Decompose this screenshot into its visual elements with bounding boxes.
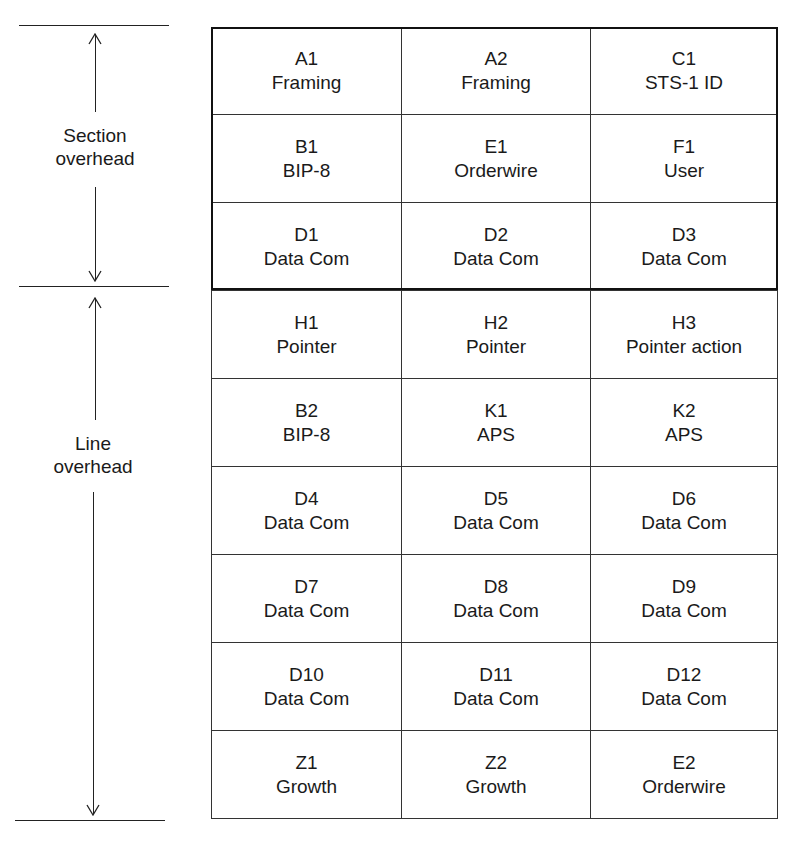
line-bottom-line <box>15 820 165 821</box>
byte-function: Data Com <box>641 599 727 623</box>
byte-function: Growth <box>465 775 526 799</box>
byte-function: APS <box>477 423 515 447</box>
byte-cell-d4: D4Data Com <box>211 467 402 555</box>
byte-code: C1 <box>672 47 696 71</box>
byte-function: Framing <box>272 71 342 95</box>
arrow-down-icon <box>88 270 102 282</box>
byte-cell-k1: K1APS <box>402 379 591 467</box>
byte-function: Data Com <box>264 599 350 623</box>
byte-cell-k2: K2APS <box>591 379 778 467</box>
byte-code: H3 <box>672 311 696 335</box>
byte-cell-z1: Z1Growth <box>211 731 402 819</box>
byte-function: Data Com <box>264 247 350 271</box>
overhead-byte-grid: A1FramingA2FramingC1STS-1 IDB1BIP-8E1Ord… <box>211 27 778 819</box>
byte-code: K2 <box>672 399 695 423</box>
byte-cell-d10: D10Data Com <box>211 643 402 731</box>
byte-code: D1 <box>294 223 318 247</box>
byte-cell-d12: D12Data Com <box>591 643 778 731</box>
line-arrow-up-shaft <box>95 298 96 420</box>
byte-function: Orderwire <box>642 775 725 799</box>
byte-function: Growth <box>276 775 337 799</box>
byte-code: A2 <box>484 47 507 71</box>
byte-cell-d5: D5Data Com <box>402 467 591 555</box>
byte-cell-h2: H2Pointer <box>402 291 591 379</box>
byte-code: H1 <box>294 311 318 335</box>
section-overhead-label: Section overhead <box>20 124 170 170</box>
byte-function: Data Com <box>641 247 727 271</box>
byte-code: Z1 <box>295 751 317 775</box>
byte-function: BIP-8 <box>283 423 331 447</box>
byte-cell-b2: B2BIP-8 <box>211 379 402 467</box>
byte-function: STS-1 ID <box>645 71 723 95</box>
byte-cell-f1: F1User <box>591 115 778 203</box>
byte-cell-d11: D11Data Com <box>402 643 591 731</box>
section-arrow-down-shaft <box>95 187 96 280</box>
byte-cell-c1: C1STS-1 ID <box>591 27 778 115</box>
byte-function: Pointer action <box>626 335 742 359</box>
section-label-line2: overhead <box>20 147 170 170</box>
byte-function: Data Com <box>264 511 350 535</box>
byte-code: D12 <box>667 663 702 687</box>
byte-cell-z2: Z2Growth <box>402 731 591 819</box>
byte-function: Framing <box>461 71 531 95</box>
byte-code: B1 <box>295 135 318 159</box>
byte-code: H2 <box>484 311 508 335</box>
byte-code: D4 <box>294 487 318 511</box>
byte-cell-h1: H1Pointer <box>211 291 402 379</box>
byte-function: Data Com <box>453 599 539 623</box>
byte-code: D9 <box>672 575 696 599</box>
byte-cell-d8: D8Data Com <box>402 555 591 643</box>
byte-code: D11 <box>479 663 512 687</box>
byte-function: Orderwire <box>454 159 537 183</box>
byte-code: F1 <box>673 135 695 159</box>
section-label-line1: Section <box>20 124 170 147</box>
byte-code: D6 <box>672 487 696 511</box>
byte-function: BIP-8 <box>283 159 331 183</box>
arrow-down-icon <box>86 804 100 816</box>
byte-code: D3 <box>672 223 696 247</box>
byte-code: E2 <box>672 751 695 775</box>
byte-code: D7 <box>294 575 318 599</box>
byte-code: A1 <box>295 47 318 71</box>
byte-cell-d3: D3Data Com <box>591 203 778 291</box>
byte-function: Data Com <box>453 511 539 535</box>
byte-cell-h3: H3Pointer action <box>591 291 778 379</box>
byte-function: Data Com <box>453 247 539 271</box>
byte-code: D10 <box>289 663 324 687</box>
byte-cell-e2: E2Orderwire <box>591 731 778 819</box>
arrow-up-icon <box>88 297 102 309</box>
byte-code: D2 <box>484 223 508 247</box>
line-overhead-label: Line overhead <box>18 432 168 478</box>
byte-code: B2 <box>295 399 318 423</box>
line-label-line2: overhead <box>18 455 168 478</box>
byte-function: Pointer <box>466 335 526 359</box>
byte-code: E1 <box>484 135 507 159</box>
byte-function: Pointer <box>276 335 336 359</box>
byte-function: APS <box>665 423 703 447</box>
byte-function: Data Com <box>453 687 539 711</box>
byte-cell-e1: E1Orderwire <box>402 115 591 203</box>
byte-cell-a2: A2Framing <box>402 27 591 115</box>
byte-cell-d1: D1Data Com <box>211 203 402 291</box>
section-line-divider <box>19 286 169 287</box>
byte-code: Z2 <box>485 751 507 775</box>
byte-cell-d7: D7Data Com <box>211 555 402 643</box>
byte-function: User <box>664 159 704 183</box>
byte-function: Data Com <box>641 687 727 711</box>
byte-cell-a1: A1Framing <box>211 27 402 115</box>
byte-cell-b1: B1BIP-8 <box>211 115 402 203</box>
line-label-line1: Line <box>18 432 168 455</box>
section-top-line <box>19 25 169 26</box>
line-arrow-down-shaft <box>93 492 94 814</box>
byte-code: D8 <box>484 575 508 599</box>
byte-cell-d6: D6Data Com <box>591 467 778 555</box>
byte-function: Data Com <box>264 687 350 711</box>
byte-function: Data Com <box>641 511 727 535</box>
byte-code: K1 <box>484 399 507 423</box>
byte-cell-d2: D2Data Com <box>402 203 591 291</box>
arrow-up-icon <box>88 33 102 45</box>
section-arrow-up-shaft <box>95 34 96 112</box>
byte-code: D5 <box>484 487 508 511</box>
byte-cell-d9: D9Data Com <box>591 555 778 643</box>
